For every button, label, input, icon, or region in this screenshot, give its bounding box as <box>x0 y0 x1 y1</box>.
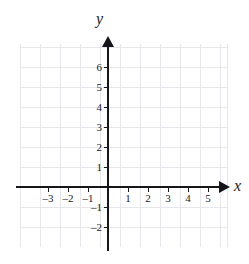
y-axis-tick-label: 6 <box>84 61 102 73</box>
y-axis-tick <box>104 147 108 148</box>
y-axis-line <box>107 47 109 251</box>
x-axis-tick-label: 3 <box>157 192 179 204</box>
grid-border-right <box>227 44 228 247</box>
grid-background <box>20 44 228 247</box>
y-axis-arrowhead-icon <box>102 36 114 47</box>
x-axis-label: x <box>234 177 241 195</box>
y-axis-tick <box>104 227 108 228</box>
y-axis-tick <box>104 87 108 88</box>
grid-border-left <box>20 44 21 247</box>
x-axis-tick-label: 5 <box>197 192 219 204</box>
y-axis-label: y <box>96 10 103 28</box>
x-axis-tick-label: –2 <box>57 192 79 204</box>
x-axis-tick-label: 2 <box>137 192 159 204</box>
grid-border-top <box>20 47 228 48</box>
y-axis-tick-label: 3 <box>84 121 102 133</box>
y-axis-tick-label: 2 <box>84 141 102 153</box>
y-axis-tick-label: 5 <box>84 81 102 93</box>
y-axis-tick-label: 4 <box>84 101 102 113</box>
y-axis-tick-label: –1 <box>84 201 102 213</box>
x-axis-tick-label: 1 <box>117 192 139 204</box>
x-axis-tick-label: –3 <box>37 192 59 204</box>
y-axis-tick <box>104 127 108 128</box>
y-axis-tick-label: 1 <box>84 161 102 173</box>
coordinate-plane-figure: y x –3–2–112345654321–1–2 <box>0 0 249 264</box>
y-axis-tick <box>104 167 108 168</box>
y-axis-tick-label: –2 <box>84 221 102 233</box>
x-axis-line <box>16 186 221 188</box>
y-axis-tick <box>104 207 108 208</box>
y-axis-tick <box>104 107 108 108</box>
y-axis-tick <box>104 67 108 68</box>
x-axis-tick-label: 4 <box>177 192 199 204</box>
x-axis-arrowhead-icon <box>219 181 230 193</box>
